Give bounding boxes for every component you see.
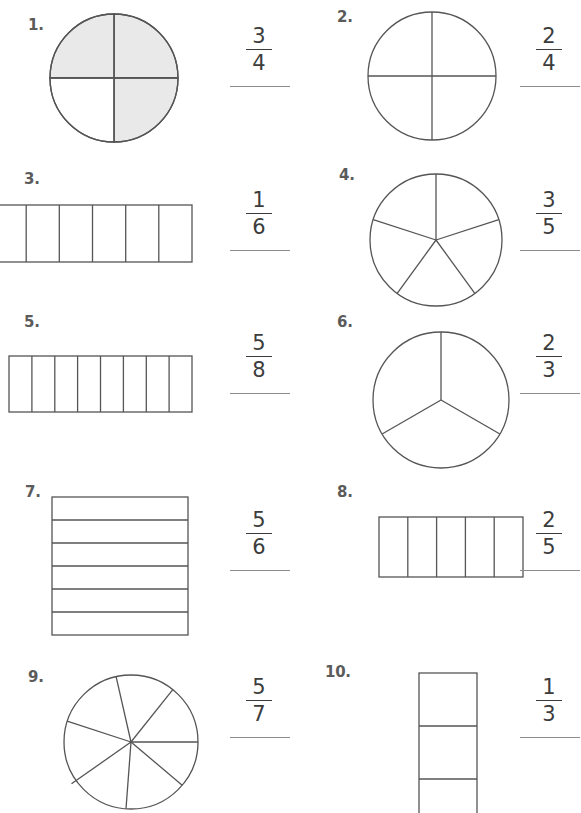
fraction-figure-circle-sevenths [62, 673, 202, 813]
answer-write-line[interactable] [230, 737, 290, 738]
sector-shaded-2 [50, 14, 114, 78]
answer-area: 3 5 [518, 190, 580, 256]
fraction-figure-circle-thirds [371, 329, 511, 471]
problem-3: 3. 1 6 [0, 160, 290, 305]
answer-area: 2 5 [518, 510, 580, 576]
fraction-bar [246, 213, 272, 214]
circle-7-parts-0-shaded [62, 673, 202, 813]
answer-area: 1 6 [228, 190, 290, 256]
answer-write-line[interactable] [230, 393, 290, 394]
fraction-denominator: 3 [518, 704, 580, 724]
fraction-numerator: 1 [228, 190, 290, 210]
fraction-denominator: 7 [228, 704, 290, 724]
fraction-bar [536, 213, 562, 214]
problem-number: 5. [24, 313, 40, 331]
circle-5-parts-0-shaded [368, 170, 504, 310]
problem-8: 8. 2 5 [290, 470, 581, 650]
fraction-figure-bar-fifths [378, 516, 526, 580]
fraction-denominator: 6 [228, 537, 290, 557]
circle-3-parts-0-shaded [371, 329, 511, 471]
fraction-figure-circle-fifths [368, 170, 504, 310]
problem-number: 9. [28, 668, 44, 686]
fraction-denominator: 3 [518, 360, 580, 380]
problem-number: 6. [337, 313, 353, 331]
answer-write-line[interactable] [520, 86, 580, 87]
fraction-denominator: 6 [228, 217, 290, 237]
fraction-numerator: 2 [518, 510, 580, 530]
answer-write-line[interactable] [230, 250, 290, 251]
fraction-bar [536, 700, 562, 701]
fraction-label: 2 5 [518, 510, 580, 557]
answer-write-line[interactable] [520, 737, 580, 738]
fraction-bar [536, 356, 562, 357]
fraction-label: 3 5 [518, 190, 580, 237]
fraction-label: 3 4 [228, 26, 290, 73]
answer-write-line[interactable] [520, 570, 580, 571]
fraction-numerator: 2 [518, 333, 580, 353]
fraction-numerator: 1 [518, 677, 580, 697]
fraction-numerator: 5 [228, 677, 290, 697]
fraction-numerator: 3 [518, 190, 580, 210]
fraction-figure-circle-quarters [367, 8, 499, 144]
answer-write-line[interactable] [520, 393, 580, 394]
answer-area: 2 4 [518, 26, 580, 92]
problem-2: 2. 2 4 [290, 0, 581, 160]
fraction-figure-circle-quarters [49, 10, 181, 146]
fraction-figure-bar-eighths [8, 355, 194, 415]
problem-number: 3. [24, 170, 40, 188]
square-6-rows-0-shaded [51, 496, 191, 638]
fraction-label: 5 6 [228, 510, 290, 557]
problem-7: 7. 5 6 [0, 470, 290, 650]
bar-outline [379, 517, 523, 577]
fraction-label: 5 8 [228, 333, 290, 380]
problem-number: 7. [25, 483, 41, 501]
fraction-denominator: 4 [518, 53, 580, 73]
bar-8-parts-0-shaded [8, 355, 194, 415]
fraction-bar [246, 700, 272, 701]
fraction-label: 2 4 [518, 26, 580, 73]
answer-area: 5 8 [228, 333, 290, 399]
answer-write-line[interactable] [230, 86, 290, 87]
bar-5-parts-0-shaded [378, 516, 526, 580]
problem-number: 2. [337, 8, 353, 26]
bar-vertical-3-parts-0-shaded [418, 672, 482, 792]
problem-number: 8. [337, 483, 353, 501]
fraction-denominator: 5 [518, 537, 580, 557]
answer-area: 5 7 [228, 677, 290, 743]
fraction-label: 5 7 [228, 677, 290, 724]
fraction-numerator: 2 [518, 26, 580, 46]
fraction-bar [246, 49, 272, 50]
circle-4-parts-3-shaded [49, 10, 181, 146]
fraction-bar [536, 533, 562, 534]
problem-number: 4. [339, 166, 355, 184]
fraction-numerator: 5 [228, 333, 290, 353]
fraction-bar [246, 533, 272, 534]
sector-shaded-1 [114, 14, 178, 78]
circle-4-parts-0-shaded [367, 8, 499, 144]
fraction-denominator: 8 [228, 360, 290, 380]
problem-9: 9. 5 7 [0, 650, 290, 786]
fraction-label: 2 3 [518, 333, 580, 380]
fraction-denominator: 5 [518, 217, 580, 237]
fraction-figure-square-sixths [51, 496, 191, 638]
fraction-label: 1 3 [518, 677, 580, 724]
bar-6-parts-0-shaded [0, 204, 194, 266]
bar-outline [419, 673, 477, 813]
answer-write-line[interactable] [520, 250, 580, 251]
problem-4: 4. 3 5 [290, 160, 581, 310]
sector-unshaded-1 [50, 78, 114, 142]
answer-area: 1 3 [518, 677, 580, 743]
fraction-bar [536, 49, 562, 50]
fraction-numerator: 5 [228, 510, 290, 530]
problem-number: 10. [325, 663, 351, 681]
answer-area: 5 6 [228, 510, 290, 576]
fraction-figure-bar-thirds-vertical [418, 672, 482, 792]
problem-number: 1. [28, 16, 44, 34]
problem-1: 1. 3 4 [0, 0, 290, 160]
answer-area: 3 4 [228, 26, 290, 92]
answer-write-line[interactable] [230, 570, 290, 571]
fraction-figure-bar-sixths [0, 204, 194, 266]
fraction-label: 1 6 [228, 190, 290, 237]
answer-area: 2 3 [518, 333, 580, 399]
fraction-numerator: 3 [228, 26, 290, 46]
